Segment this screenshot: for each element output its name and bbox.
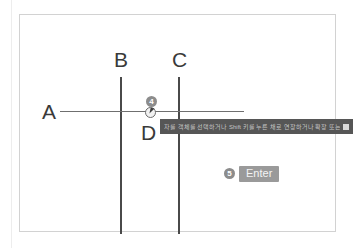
label-a: A — [42, 101, 56, 122]
page-edge-sliver — [3, 0, 12, 248]
mouse-cursor-icon — [145, 107, 158, 120]
vertical-line-b — [120, 77, 122, 234]
overflow-icon[interactable] — [343, 124, 349, 130]
enter-key-button[interactable]: Enter — [239, 166, 279, 182]
diagram-frame: A B C D 4 자를 객체를 선택하거나 Shift 키를 누른 채로 연장… — [19, 14, 336, 232]
label-d: D — [141, 122, 156, 143]
step-badge-5: 5 — [224, 168, 235, 179]
command-prompt-text: 자를 객체를 선택하거나 Shift 키를 누른 채로 연장하거나 확장 또는 — [164, 123, 340, 131]
vertical-line-c — [178, 77, 180, 234]
label-c: C — [172, 49, 187, 70]
command-prompt-bar[interactable]: 자를 객체를 선택하거나 Shift 키를 누른 채로 연장하거나 확장 또는 — [160, 119, 353, 134]
step-badge-4: 4 — [146, 96, 157, 107]
label-b: B — [114, 49, 128, 70]
